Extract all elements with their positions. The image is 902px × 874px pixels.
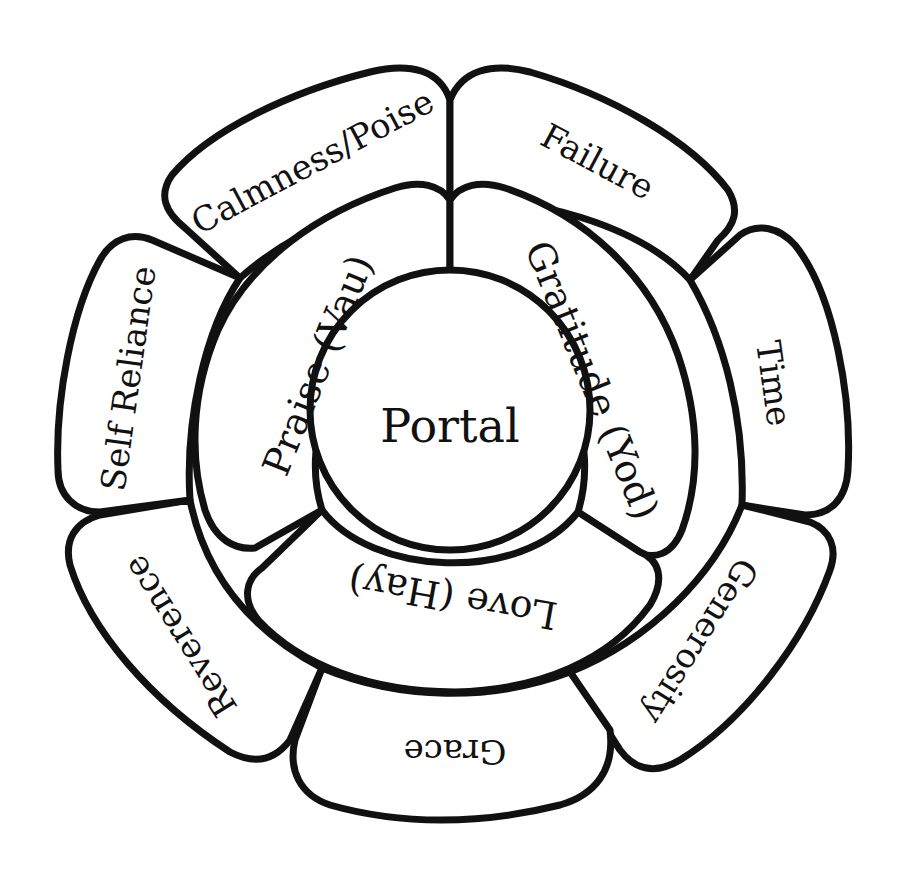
label-grace: Grace [404,732,507,772]
flower-diagram: Portal Praise (Vau) Gratitude (Yod) Love… [0,0,902,874]
label-portal: Portal [380,399,519,453]
